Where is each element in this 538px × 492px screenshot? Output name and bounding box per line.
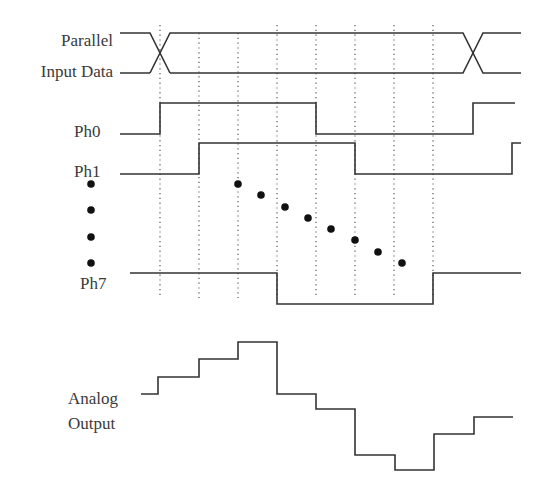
parallel-data-bus-top xyxy=(120,33,521,73)
ph1-waveform xyxy=(120,143,521,174)
ph7-waveform xyxy=(130,273,521,304)
timing-diagram xyxy=(0,0,538,492)
diagonal-ellipsis-icon xyxy=(234,180,406,267)
ph0-waveform xyxy=(120,103,515,134)
clock-edge-gridlines xyxy=(160,25,433,298)
parallel-data-bus-bottom xyxy=(120,33,521,73)
analog-output-waveform xyxy=(141,342,513,470)
vertical-ellipsis-icon xyxy=(87,180,95,267)
